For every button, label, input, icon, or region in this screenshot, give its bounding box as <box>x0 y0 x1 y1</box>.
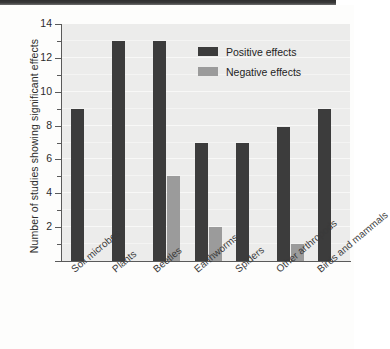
y-tick-minor <box>57 41 61 42</box>
y-tick-minor <box>57 176 61 177</box>
legend: Positive effects Negative effects <box>198 43 301 83</box>
bar-positive <box>153 41 166 261</box>
y-tick-label: 14 <box>12 17 52 29</box>
y-tick-major <box>55 227 61 228</box>
legend-swatch-negative-icon <box>198 67 218 76</box>
y-tick-minor <box>57 244 61 245</box>
gridline <box>62 91 350 92</box>
gridline <box>62 40 350 41</box>
legend-label-positive: Positive effects <box>226 46 296 58</box>
y-tick-major <box>55 261 61 262</box>
y-axis-line <box>61 24 62 262</box>
y-tick-minor <box>57 75 61 76</box>
y-tick-major <box>55 24 61 25</box>
y-tick-label: 4 <box>12 186 52 198</box>
legend-item-negative: Negative effects <box>198 63 301 80</box>
gridline <box>62 125 350 126</box>
scan-artifact-band <box>0 0 354 5</box>
bar-positive <box>277 127 290 261</box>
y-tick-label: 6 <box>12 152 52 164</box>
y-tick-minor <box>57 109 61 110</box>
y-tick-major <box>55 159 61 160</box>
bar-positive <box>236 143 249 262</box>
y-tick-major <box>55 92 61 93</box>
bar-positive <box>71 109 84 261</box>
y-tick-label: 10 <box>12 85 52 97</box>
legend-label-negative: Negative effects <box>226 66 301 78</box>
gridline <box>62 108 350 109</box>
y-tick-label: 8 <box>12 119 52 131</box>
y-tick-label: 12 <box>12 51 52 63</box>
bar-positive <box>195 143 208 262</box>
y-tick-major <box>55 58 61 59</box>
y-tick-label: 2 <box>12 220 52 232</box>
y-tick-minor <box>57 210 61 211</box>
legend-swatch-positive-icon <box>198 47 218 56</box>
scan-artifact-band-gap <box>336 0 354 5</box>
y-tick-major <box>55 193 61 194</box>
y-tick-minor <box>57 143 61 144</box>
legend-item-positive: Positive effects <box>198 43 301 60</box>
y-tick-major <box>55 126 61 127</box>
